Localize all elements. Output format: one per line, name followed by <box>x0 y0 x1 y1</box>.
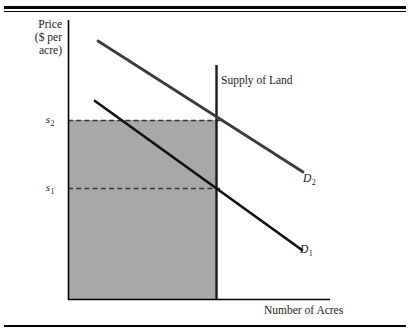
x-axis-label: Number of Acres <box>264 304 343 317</box>
d2-letter: D <box>303 172 311 184</box>
land-market-figure: Price ($ per acre) Number of Acres Suppl… <box>0 0 410 334</box>
y-tick-label-s1: s1 <box>28 181 54 194</box>
y-tick-s2-letter: s <box>46 113 50 125</box>
y-tick-s2-subscript: 2 <box>51 119 55 128</box>
y-tick-s1-subscript: 1 <box>51 187 55 196</box>
y-axis-label: Price ($ per acre) <box>6 18 62 57</box>
demand-curve-d1-label: D1 <box>300 243 312 256</box>
supply-of-land-label: Supply of Land <box>221 74 293 87</box>
d1-subscript: 1 <box>309 249 313 258</box>
y-tick-s1-letter: s <box>46 181 50 193</box>
d1-letter: D <box>300 243 308 255</box>
demand-curve-d2-label: D2 <box>303 172 315 185</box>
d2-subscript: 2 <box>312 178 316 187</box>
y-tick-label-s2: s2 <box>28 113 54 126</box>
economic-rent-shaded-area <box>68 120 216 299</box>
